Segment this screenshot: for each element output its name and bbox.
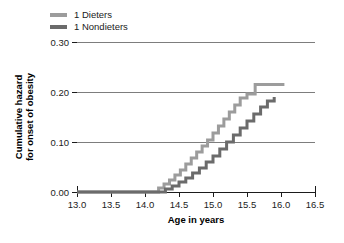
legend-item-nondieters: 1 Nondieters [50, 21, 128, 32]
legend-item-dieters: 1 Dieters [50, 9, 128, 20]
y-axis-title: Cumulative hazard for onset of obesity [12, 42, 36, 192]
y-axis-title-line1: Cumulative hazard [13, 75, 25, 159]
x-axis-title: Age in years [77, 214, 315, 225]
x-axis-right-cap [315, 186, 316, 193]
step-curves [77, 42, 315, 192]
plot-area: 0.000.100.200.30 13.013.514.014.515.015.… [77, 42, 315, 192]
chart-legend: 1 Dieters 1 Nondieters [50, 9, 128, 33]
x-tick-label-14.0: 14.0 [136, 199, 155, 210]
y-axis-title-line2: for onset of obesity [24, 73, 36, 161]
series-line-dieters [77, 85, 284, 193]
legend-label-nondieters: 1 Nondieters [74, 21, 128, 32]
legend-label-dieters: 1 Dieters [74, 9, 112, 20]
x-tick-label-15.5: 15.5 [238, 199, 257, 210]
x-tick-label-13.5: 13.5 [102, 199, 121, 210]
x-tick-label-15.0: 15.0 [204, 199, 223, 210]
legend-swatch-icon-nondieters [50, 25, 67, 29]
x-tick-label-13.0: 13.0 [68, 199, 87, 210]
legend-swatch-icon-dieters [50, 13, 67, 17]
y-tick-label-0.00: 0.00 [51, 187, 70, 198]
y-tick-label-0.30: 0.30 [51, 37, 70, 48]
x-tick-label-14.5: 14.5 [170, 199, 189, 210]
x-tick-label-16.5: 16.5 [306, 199, 325, 210]
y-tick-label-0.20: 0.20 [51, 87, 70, 98]
cumulative-hazard-chart: 1 Dieters 1 Nondieters 0.000.100.200.30 … [0, 0, 344, 243]
y-tick-label-0.10: 0.10 [51, 137, 70, 148]
x-tick-label-16.0: 16.0 [272, 199, 291, 210]
